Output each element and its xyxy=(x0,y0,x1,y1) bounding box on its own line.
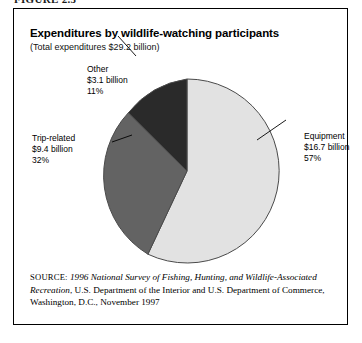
pie-label-equipment-percent: 57% xyxy=(304,153,349,164)
pie-label-trip-related: Trip-related $9.4 billion 32% xyxy=(32,133,75,166)
source-prefix: SOURCE: xyxy=(30,272,68,282)
pie-label-other-value: $3.1 billion xyxy=(87,75,128,86)
pie-label-trip-related-value: $9.4 billion xyxy=(32,144,75,155)
leader-line-other xyxy=(118,36,136,56)
pie-label-equipment-value: $16.7 billion xyxy=(304,142,349,153)
source-note: SOURCE: 1996 National Survey of Fishing,… xyxy=(30,271,335,309)
figure-caption: FIGURE 2.5 xyxy=(14,0,76,5)
pie-label-other-percent: 11% xyxy=(87,86,128,97)
figure-frame: Expenditures by wildlife-watching partic… xyxy=(13,8,348,325)
pie-label-other-name: Other xyxy=(87,64,128,75)
source-rest: , U.S. Department of the Interior and U.… xyxy=(30,285,325,308)
pie-label-trip-related-percent: 32% xyxy=(32,155,75,166)
pie-label-equipment-name: Equipment xyxy=(304,131,349,142)
pie-label-equipment: Equipment $16.7 billion 57% xyxy=(304,131,349,164)
pie-label-other: Other $3.1 billion 11% xyxy=(87,64,128,97)
pie-label-trip-related-name: Trip-related xyxy=(32,133,75,144)
